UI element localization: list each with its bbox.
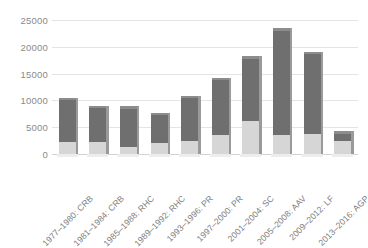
bar-top-cap xyxy=(89,106,106,109)
bar-segment-lower xyxy=(120,147,137,155)
bar-side-face xyxy=(168,113,171,154)
bar-segment-lower xyxy=(334,141,351,154)
bar-segment-upper xyxy=(120,109,137,147)
x-label-slot: 2013–2016: AGP xyxy=(327,156,358,244)
bar-top-cap xyxy=(334,131,351,134)
bar-slot xyxy=(205,20,236,154)
bar-segment-upper xyxy=(273,31,290,135)
bar-slot xyxy=(174,20,205,154)
bar-slot xyxy=(327,20,358,154)
y-axis-tick-label: 10000 xyxy=(0,95,48,106)
bar-side-face xyxy=(229,78,232,154)
bar-side-face xyxy=(290,28,293,154)
bar[interactable] xyxy=(273,31,290,154)
bar-slot xyxy=(236,20,267,154)
bar-segment-upper xyxy=(304,54,321,134)
bar-segment-upper xyxy=(181,98,198,141)
bar-segment-lower xyxy=(212,135,229,154)
bar[interactable] xyxy=(120,109,137,154)
bar-segment-lower xyxy=(89,142,106,154)
bar[interactable] xyxy=(334,134,351,154)
bar-slot xyxy=(297,20,328,154)
bar-segment-upper xyxy=(242,59,259,121)
y-axis-tick-label: 15000 xyxy=(0,68,48,79)
bar-segment-upper xyxy=(212,80,229,135)
bar-slot xyxy=(52,20,83,154)
bar-top-cap xyxy=(242,56,259,59)
x-axis-labels: 1977–1980: CRB1981–1984: CRB1985–1988: R… xyxy=(52,156,358,244)
y-axis-tick-label: 20000 xyxy=(0,41,48,52)
bar-side-face xyxy=(259,56,262,154)
bar-segment-lower xyxy=(242,121,259,154)
bar-side-face xyxy=(351,131,354,154)
y-axis-tick-label: 5000 xyxy=(0,122,48,133)
bar-top-cap xyxy=(59,98,76,101)
bar[interactable] xyxy=(89,108,106,154)
bar-segment-lower xyxy=(181,141,198,154)
bar-segment-lower xyxy=(151,143,168,154)
bar-top-cap xyxy=(151,113,168,116)
bar-top-cap xyxy=(304,52,321,55)
bar-segment-upper xyxy=(59,100,76,142)
bar-side-face xyxy=(321,52,324,154)
bar-series-group xyxy=(52,20,358,154)
bar-slot xyxy=(144,20,175,154)
bar-top-cap xyxy=(212,78,229,81)
bar-side-face xyxy=(137,106,140,154)
bar-segment-upper xyxy=(334,134,351,142)
bar-side-face xyxy=(106,106,109,154)
y-axis-tick-label: 25000 xyxy=(0,15,48,26)
x-axis-tick-label: 2013–2016: AGP xyxy=(329,158,368,212)
bar-segment-upper xyxy=(151,115,168,143)
bar-slot xyxy=(113,20,144,154)
bar[interactable] xyxy=(304,54,321,154)
bar-slot xyxy=(83,20,114,154)
bar-segment-upper xyxy=(89,108,106,141)
bar[interactable] xyxy=(151,115,168,154)
x-label-slot: 1981–1984: CRB xyxy=(83,156,114,244)
x-label-slot: 1985–1988: RHC xyxy=(113,156,144,244)
x-label-slot: 1977–1980: CRB xyxy=(52,156,83,244)
bar-top-cap xyxy=(120,106,137,109)
bar[interactable] xyxy=(181,98,198,154)
bar-top-cap xyxy=(273,28,290,31)
bar-slot xyxy=(266,20,297,154)
bar-segment-lower xyxy=(273,135,290,154)
bar-side-face xyxy=(198,96,201,154)
bar[interactable] xyxy=(59,100,76,154)
x-label-slot: 2009–2012: LF xyxy=(297,156,328,244)
bar-segment-lower xyxy=(59,142,76,154)
y-axis: 0500010000150002000025000 xyxy=(0,20,48,154)
bar-segment-lower xyxy=(304,134,321,154)
bar[interactable] xyxy=(212,80,229,154)
y-axis-tick-label: 0 xyxy=(0,149,48,160)
bar-side-face xyxy=(76,98,79,154)
bar-top-cap xyxy=(181,96,198,99)
bar[interactable] xyxy=(242,59,259,154)
